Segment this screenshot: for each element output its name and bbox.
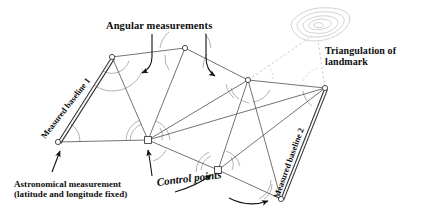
measured-baseline-2 <box>281 88 328 200</box>
control-point-B <box>109 54 114 59</box>
edge-D-E <box>148 80 248 140</box>
control-point-F <box>322 85 327 90</box>
landmark-contours <box>291 8 350 41</box>
control-point-C <box>182 45 187 50</box>
leader-astronomical <box>52 151 60 172</box>
control-point-D <box>145 137 152 144</box>
leader-angular-right <box>206 34 215 76</box>
sight-lines-to-landmark <box>248 36 325 88</box>
angular-measurements-label: Angular measurements <box>106 20 212 32</box>
edge-C-E <box>185 48 248 80</box>
astronomical-measurement-label: Astronomical measurement (latitude and l… <box>14 179 127 199</box>
edge-C-D <box>148 48 185 140</box>
edge-A-D <box>58 140 148 142</box>
leader-control-d <box>148 150 152 176</box>
edge-D-G <box>148 140 218 170</box>
figure-canvas: Angular measurements Triangulation of la… <box>0 0 421 217</box>
triangulation-of-landmark-label: Triangulation of landmark <box>325 45 396 67</box>
control-point-E <box>245 77 250 82</box>
leader-control-h <box>229 198 268 204</box>
landmark-angle-arcs <box>268 65 318 81</box>
control-point-A <box>55 139 60 144</box>
edge-B-C <box>112 48 185 57</box>
edge-E-F <box>248 80 325 88</box>
